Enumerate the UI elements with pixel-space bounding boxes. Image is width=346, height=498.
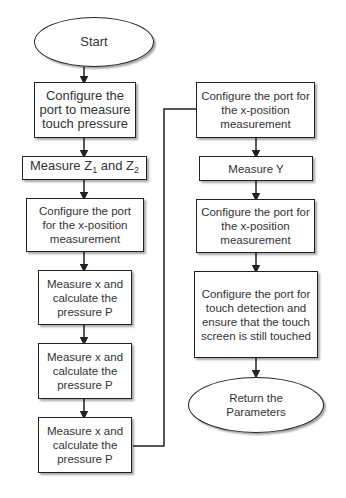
configure-touch-detection-step: Configure the port for touch detection a… bbox=[194, 271, 318, 358]
measure-z-label: Measure Z1 and Z2 bbox=[30, 159, 139, 177]
configure-x-position-step-3: Configure the port for the x-position me… bbox=[196, 199, 315, 253]
measure-x-step-1: Measure x and calculate the pressure P bbox=[38, 270, 132, 325]
configure-x-position-step-1: Configure the port for the x-position me… bbox=[26, 198, 144, 252]
measure-x-step-2: Measure x and calculate the pressure P bbox=[38, 343, 132, 399]
return-terminal: Return the Parameters bbox=[188, 377, 324, 433]
start-terminal: Start bbox=[34, 17, 154, 67]
measure-x-step-3: Measure x and calculate the pressure P bbox=[38, 417, 132, 473]
configure-pressure-step: Configure the port to measure touch pres… bbox=[34, 82, 136, 138]
measure-z-step: Measure Z1 and Z2 bbox=[22, 156, 147, 180]
configure-x-position-step-2: Configure the port for the x-position me… bbox=[196, 82, 315, 138]
measure-y-step: Measure Y bbox=[199, 156, 313, 181]
